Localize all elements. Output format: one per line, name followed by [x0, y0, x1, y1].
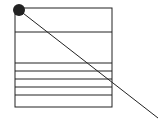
anchor-dot [13, 4, 25, 16]
diagram-canvas [0, 0, 159, 126]
outer-rectangle [15, 8, 112, 107]
diagonal-line [19, 10, 158, 118]
